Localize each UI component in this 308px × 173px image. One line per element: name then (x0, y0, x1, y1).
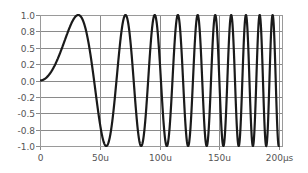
y-tick-label: 1.0 (21, 11, 36, 21)
x-tick-label: 100u (149, 153, 172, 163)
x-tick-label: 200µs (266, 153, 294, 163)
y-tick-label: -0.2 (17, 93, 35, 103)
y-tick-label: -0.5 (17, 109, 35, 119)
y-tick-label: 0.5 (21, 44, 35, 54)
y-tick-label: -1.0 (17, 142, 35, 152)
y-tick-label: 0.0 (21, 77, 36, 87)
x-tick-label: 0 (38, 153, 44, 163)
y-tick-label: 0.8 (21, 27, 36, 37)
x-axis-tick-labels: 050u100u150u200µs (38, 153, 294, 163)
y-tick-label: 0.2 (21, 60, 35, 70)
y-axis-tick-labels: 1.00.80.50.20.0-0.2-0.5-0.8-1.0 (17, 11, 35, 152)
y-tick-label: -0.8 (17, 126, 35, 136)
x-tick-label: 50u (92, 153, 109, 163)
chirp-series-line (40, 15, 279, 146)
chirp-line-chart: 1.00.80.50.20.0-0.2-0.5-0.8-1.0 050u100u… (0, 0, 308, 173)
x-tick-label: 150u (208, 153, 231, 163)
